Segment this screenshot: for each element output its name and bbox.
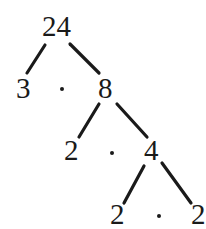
multiply-dot-3: [157, 214, 161, 218]
edge-24-3: [27, 45, 45, 73]
node-8: 8: [98, 74, 113, 103]
edge-24-8: [70, 44, 99, 73]
factor-tree-diagram: 24 3 8 2 4 2 2: [0, 0, 206, 229]
node-2-bottom-right: 2: [191, 200, 206, 229]
edge-4-2-left: [124, 166, 144, 203]
edge-8-4: [117, 104, 147, 137]
edge-8-2: [79, 104, 99, 137]
multiply-dot-1: [60, 87, 64, 91]
node-2-bottom-left: 2: [110, 200, 125, 229]
node-3: 3: [16, 74, 31, 103]
node-2-left: 2: [64, 136, 79, 165]
node-4: 4: [144, 136, 159, 165]
multiply-dot-2: [110, 151, 114, 155]
edge-4-2-right: [162, 163, 191, 203]
node-24: 24: [42, 12, 71, 41]
tree-edges: [0, 0, 206, 229]
